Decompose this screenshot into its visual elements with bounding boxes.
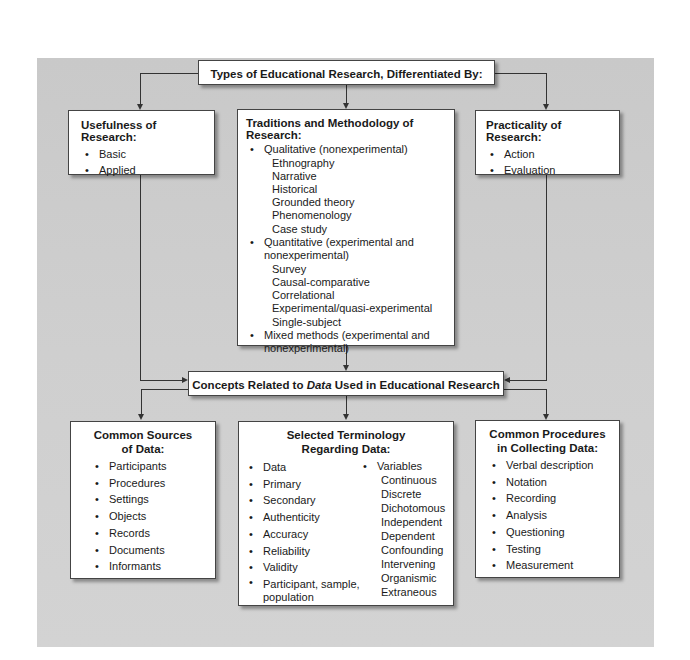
sub-item: Narrative — [246, 170, 454, 183]
list-item-label: Mixed methods (experimental and — [264, 329, 430, 341]
connector-concepts-to-procedures-horizontal — [504, 389, 547, 390]
sub-item: Historical — [246, 183, 454, 196]
list-item: Reliability — [245, 543, 365, 560]
top-title: Types of Educational Research, Different… — [210, 68, 482, 80]
arrow-down-icon — [343, 414, 349, 420]
sub-item: Correlational — [246, 289, 454, 302]
usefulness-box: Usefulness of Research: Basic Applied — [68, 110, 215, 175]
sources-list: Participants Procedures Settings Objects… — [71, 458, 215, 575]
list-item: Action — [486, 146, 619, 162]
traditions-list-mixed: Mixed methods (experimental and nonexper… — [246, 329, 454, 356]
list-item: Participants — [91, 458, 215, 475]
list-item-label: Quantitative (experimental and — [264, 236, 414, 248]
practicality-box: Practicality of Research: Action Evaluat… — [475, 110, 620, 175]
terminology-title: Selected Terminology Regarding Data: — [239, 428, 453, 456]
sub-item: Dependent — [359, 529, 455, 543]
sub-item: Causal-comparative — [246, 276, 454, 289]
concepts-title: Concepts Related to Data Used in Educati… — [192, 379, 499, 391]
list-item: Data — [245, 459, 365, 476]
sub-item: Organismic — [359, 571, 455, 585]
connector-top-left-horizontal — [140, 73, 198, 74]
traditions-title: Traditions and Methodology of Research: — [246, 117, 454, 141]
list-item: Objects — [91, 508, 215, 525]
concepts-title-part: Used in Educational Research — [332, 379, 500, 391]
variables-list: Variables — [359, 459, 455, 473]
connector-right-to-concepts-horizontal — [509, 380, 547, 381]
list-item: Validity — [245, 559, 365, 576]
connector-concepts-to-terminology-vertical — [346, 396, 347, 415]
sources-title-line: of Data: — [122, 443, 165, 455]
terminology-title-line: Regarding Data: — [302, 443, 391, 455]
terminology-box: Selected Terminology Regarding Data: Dat… — [238, 421, 454, 606]
list-item: Testing — [488, 541, 619, 558]
list-item-qualitative: Qualitative (nonexperimental) — [246, 143, 454, 157]
connector-concepts-to-procedures-vertical — [546, 389, 547, 415]
sub-item: Confounding — [359, 543, 455, 557]
list-item-variables: Variables — [359, 459, 455, 473]
concepts-title-italic: Data — [307, 379, 332, 391]
list-item: Questioning — [488, 524, 619, 541]
usefulness-title: Usefulness of Research: — [81, 119, 214, 143]
list-item: Measurement — [488, 557, 619, 574]
list-item: Basic — [81, 146, 214, 162]
sub-item: Grounded theory — [246, 196, 454, 209]
procedures-title-line: Common Procedures — [489, 428, 605, 440]
connector-concepts-to-sources-vertical — [141, 389, 142, 415]
sub-item: Experimental/quasi-experimental — [246, 302, 454, 315]
sources-title: Common Sources of Data: — [71, 428, 215, 456]
concepts-title-part: Concepts Related to — [192, 379, 306, 391]
list-item-mixed: Mixed methods (experimental and nonexper… — [246, 329, 454, 356]
list-item: Settings — [91, 491, 215, 508]
list-item-label-cont: nonexperimental) — [264, 249, 349, 261]
traditions-list-quant: Quantitative (experimental and nonexperi… — [246, 236, 454, 263]
list-item: Records — [91, 525, 215, 542]
list-item: Accuracy — [245, 526, 365, 543]
terminology-variables: Variables Continuous Discrete Dichotomou… — [359, 459, 455, 599]
list-item: Documents — [91, 542, 215, 559]
list-item: Procedures — [91, 475, 215, 492]
connector-left-to-concepts-vertical — [140, 175, 141, 380]
practicality-list: Action Evaluation — [486, 146, 619, 178]
connector-concepts-to-sources-horizontal — [141, 389, 188, 390]
list-item: Evaluation — [486, 162, 619, 178]
list-item-quantitative: Quantitative (experimental and nonexperi… — [246, 236, 454, 263]
sources-box: Common Sources of Data: Participants Pro… — [70, 421, 216, 579]
list-item-label: Participant, sample, — [263, 578, 360, 590]
concepts-box: Concepts Related to Data Used in Educati… — [188, 371, 504, 396]
procedures-box: Common Procedures in Collecting Data: Ve… — [475, 420, 620, 578]
list-item: Secondary — [245, 492, 365, 509]
procedures-title: Common Procedures in Collecting Data: — [476, 427, 619, 455]
sub-item: Dichotomous — [359, 501, 455, 515]
sub-item: Phenomenology — [246, 209, 454, 222]
connector-right-to-concepts-vertical — [546, 175, 547, 380]
sources-title-line: Common Sources — [94, 429, 192, 441]
sub-item: Single-subject — [246, 316, 454, 329]
connector-top-left-vertical — [140, 73, 141, 105]
sub-item: Independent — [359, 515, 455, 529]
traditions-list: Qualitative (nonexperimental) — [246, 143, 454, 157]
list-item-label-cont: nonexperimental) — [264, 342, 349, 354]
list-item: Notation — [488, 474, 619, 491]
sub-item: Continuous — [359, 473, 455, 487]
list-item: Recording — [488, 490, 619, 507]
sub-item: Case study — [246, 223, 454, 236]
list-item: Informants — [91, 558, 215, 575]
connector-top-right-vertical — [546, 73, 547, 105]
sub-item: Discrete — [359, 487, 455, 501]
top-title-box: Types of Educational Research, Different… — [198, 60, 495, 85]
list-item: Verbal description — [488, 457, 619, 474]
practicality-title: Practicality of Research: — [486, 119, 619, 143]
list-item: Applied — [81, 162, 214, 178]
list-item: Analysis — [488, 507, 619, 524]
terminology-left-list: Data Primary Secondary Authenticity Accu… — [245, 459, 365, 604]
connector-top-right-horizontal — [495, 73, 547, 74]
connector-left-to-concepts-horizontal — [140, 380, 183, 381]
list-item-label-cont: population — [263, 591, 314, 603]
list-item: Authenticity — [245, 509, 365, 526]
procedures-title-line: in Collecting Data: — [497, 442, 598, 454]
sub-item: Intervening — [359, 557, 455, 571]
list-item: Participant, sample, population — [245, 576, 365, 604]
sub-item: Survey — [246, 263, 454, 276]
sub-item: Extraneous — [359, 585, 455, 599]
terminology-title-line: Selected Terminology — [287, 429, 406, 441]
